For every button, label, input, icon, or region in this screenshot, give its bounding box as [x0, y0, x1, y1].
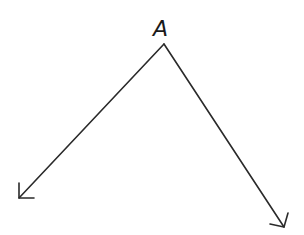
right-ray: [164, 44, 284, 227]
vertex-label: A: [153, 18, 168, 40]
left-ray: [19, 44, 164, 198]
angle-diagram: [0, 0, 304, 235]
